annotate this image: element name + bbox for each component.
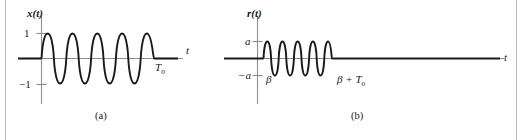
panel-a-ytick-label-1: 1 [24,28,30,39]
panel-a-x-axis-label: t [186,45,189,56]
panel-b-x-axis-label: t [504,52,507,63]
panel-a-caption: (a) [95,111,107,122]
panel-b-ytick-label-minus-a: −a [238,70,251,81]
figure-container: x(t) 1 −1 To t (a) r(t) a −a β β + To t … [0,0,522,140]
panel-b-y-axis-label: r(t) [247,8,262,19]
panel-b-ytick-label-a: a [245,36,251,47]
panel-a-ytick-label-minus1: −1 [19,79,31,90]
panel-a-burst-end-label: To [155,62,165,73]
panel-a-y-axis-label: x(t) [27,8,43,19]
panel-b-caption: (b) [351,111,363,122]
panel-b-burst-end-label: β + To [337,74,365,85]
figure-right-border [516,0,517,140]
panel-b-burst-start-label: β [266,74,271,85]
panel-b-plot [222,0,514,140]
